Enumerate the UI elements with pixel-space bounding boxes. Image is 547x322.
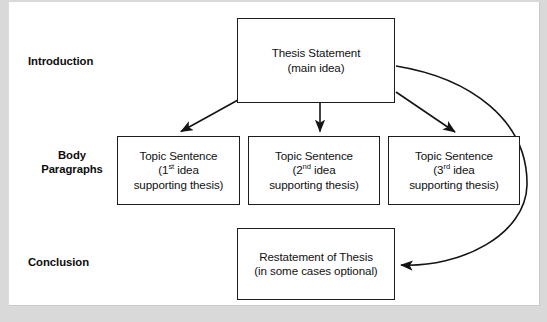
node-topic-1-line2-pre: (1 bbox=[158, 163, 168, 176]
node-topic-2-line2-pre: (2 bbox=[293, 163, 303, 176]
node-topic-2-ordinal-suffix: nd bbox=[303, 162, 311, 171]
stage-label-body-line1: Body bbox=[24, 148, 120, 162]
node-topic-2-line3: supporting thesis) bbox=[249, 178, 379, 192]
node-thesis-statement[interactable]: Thesis Statement (main idea) bbox=[237, 18, 395, 103]
stage-label-conclusion: Conclusion bbox=[28, 255, 89, 269]
node-topic-1-line3: supporting thesis) bbox=[118, 178, 239, 192]
node-topic-3-line2: (3rd idea bbox=[389, 163, 519, 177]
node-topic-3-line2-post: idea bbox=[450, 163, 475, 176]
diagram-canvas: Introduction Body Paragraphs Conclusion … bbox=[0, 0, 547, 322]
node-topic-3-line3: supporting thesis) bbox=[389, 178, 519, 192]
node-topic-3-line1: Topic Sentence bbox=[389, 149, 519, 163]
stage-label-body-line2: Paragraphs bbox=[24, 162, 120, 176]
node-topic-sentence-3[interactable]: Topic Sentence (3rd idea supporting thes… bbox=[388, 136, 520, 205]
node-thesis-line1: Thesis Statement bbox=[238, 46, 394, 60]
node-topic-1-line2-post: idea bbox=[174, 163, 199, 176]
stage-label-introduction: Introduction bbox=[28, 54, 93, 68]
node-topic-3-line2-pre: (3 bbox=[433, 163, 443, 176]
node-topic-2-line2-post: idea bbox=[311, 163, 336, 176]
node-conclusion-line1: Restatement of Thesis bbox=[238, 250, 394, 264]
node-conclusion-line2: (in some cases optional) bbox=[238, 264, 394, 278]
page-left-edge bbox=[8, 2, 9, 306]
node-topic-sentence-1[interactable]: Topic Sentence (1st idea supporting thes… bbox=[117, 136, 240, 205]
stage-label-body-paragraphs: Body Paragraphs bbox=[24, 148, 120, 176]
node-topic-2-line2: (2nd idea bbox=[249, 163, 379, 177]
node-restatement-of-thesis[interactable]: Restatement of Thesis (in some cases opt… bbox=[237, 228, 395, 300]
node-topic-1-line2: (1st idea bbox=[118, 163, 239, 177]
node-topic-2-line1: Topic Sentence bbox=[249, 149, 379, 163]
node-topic-sentence-2[interactable]: Topic Sentence (2nd idea supporting thes… bbox=[248, 136, 380, 205]
node-topic-1-line1: Topic Sentence bbox=[118, 149, 239, 163]
node-thesis-line2: (main idea) bbox=[238, 61, 394, 75]
